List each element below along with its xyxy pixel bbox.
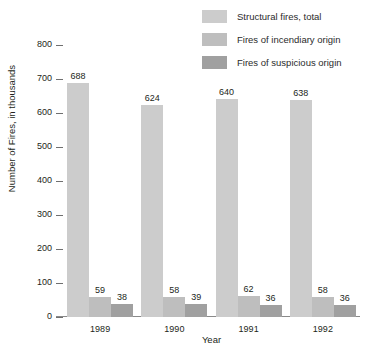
- y-axis-tick: 0: [0, 317, 63, 318]
- y-axis-tick-label: 0: [47, 311, 52, 321]
- bar-group: 64062361991: [212, 45, 286, 317]
- bar[interactable]: [89, 297, 111, 317]
- bar-column[interactable]: 62: [238, 296, 260, 317]
- legend-item-structural-fires-total: Structural fires, total: [202, 9, 377, 23]
- y-axis-tick-label: 600: [37, 107, 52, 117]
- legend-swatch-icon: [202, 10, 227, 23]
- bar[interactable]: [290, 100, 312, 317]
- x-axis-tick-label: 1992: [313, 324, 333, 334]
- bar-column[interactable]: 39: [185, 304, 207, 317]
- y-axis-tick-mark: [56, 147, 63, 148]
- y-axis-tick-mark: [56, 79, 63, 80]
- bar-value-label: 640: [219, 87, 234, 97]
- y-axis-tick-label: 200: [37, 243, 52, 253]
- bar-value-label: 62: [244, 284, 254, 294]
- bar-group: 68859381989: [63, 45, 137, 317]
- legend-swatch-icon: [202, 33, 227, 46]
- bar[interactable]: [260, 305, 282, 317]
- bar-column[interactable]: 640: [216, 99, 238, 317]
- y-axis-tick-label: 500: [37, 141, 52, 151]
- bar-value-label: 36: [340, 293, 350, 303]
- y-axis-tick-mark: [56, 317, 63, 318]
- legend-label: Fires of incendiary origin: [237, 33, 341, 46]
- legend-item-fires-of-incendiary-origin: Fires of incendiary origin: [202, 32, 377, 46]
- plot-area: 8007006005004003002001000 68859381989624…: [63, 45, 360, 317]
- bar[interactable]: [111, 304, 133, 317]
- y-axis-tick-label: 100: [37, 277, 52, 287]
- bar[interactable]: [163, 297, 185, 317]
- y-axis-tick-label: 400: [37, 175, 52, 185]
- bar-column[interactable]: 624: [141, 105, 163, 317]
- y-axis-tick: 300: [0, 215, 63, 216]
- bar-value-label: 59: [95, 285, 105, 295]
- x-axis-tick-label: 1989: [90, 324, 110, 334]
- bar-column[interactable]: 688: [67, 83, 89, 317]
- bar-group: 63858361992: [286, 45, 360, 317]
- y-axis-tick-mark: [56, 113, 63, 114]
- y-axis-tick-mark: [56, 283, 63, 284]
- bar-value-label: 38: [117, 292, 127, 302]
- bar-column[interactable]: 59: [89, 297, 111, 317]
- y-axis-tick: 800: [0, 45, 63, 46]
- bar-value-label: 624: [145, 93, 160, 103]
- y-axis-tick: 200: [0, 249, 63, 250]
- x-axis-tick-label: 1990: [164, 324, 184, 334]
- bar-column[interactable]: 36: [334, 305, 356, 317]
- bar-value-label: 39: [191, 292, 201, 302]
- bar-groups: 6885938198962458391990640623619916385836…: [63, 45, 360, 317]
- y-axis-title: Number of Fires, in thousands: [6, 59, 17, 199]
- bar[interactable]: [185, 304, 207, 317]
- bar-column[interactable]: 638: [290, 100, 312, 317]
- bar-value-label: 58: [318, 285, 328, 295]
- x-axis-title: Year: [63, 334, 360, 345]
- y-axis-tick-mark: [56, 45, 63, 46]
- bar[interactable]: [238, 296, 260, 317]
- y-axis-tick-mark: [56, 181, 63, 182]
- y-axis-tick-label: 300: [37, 209, 52, 219]
- bar-value-label: 638: [293, 88, 308, 98]
- bar-value-label: 688: [71, 71, 86, 81]
- bar-column[interactable]: 38: [111, 304, 133, 317]
- bar-value-label: 58: [169, 285, 179, 295]
- bar[interactable]: [141, 105, 163, 317]
- bar[interactable]: [67, 83, 89, 317]
- bar-column[interactable]: 36: [260, 305, 282, 317]
- bar-column[interactable]: 58: [163, 297, 185, 317]
- bar[interactable]: [216, 99, 238, 317]
- bar[interactable]: [334, 305, 356, 317]
- bar-group: 62458391990: [137, 45, 211, 317]
- y-axis-tick-mark: [56, 249, 63, 250]
- bar[interactable]: [312, 297, 334, 317]
- bar-column[interactable]: 58: [312, 297, 334, 317]
- y-axis-tick: 100: [0, 283, 63, 284]
- bar-value-label: 36: [266, 293, 276, 303]
- y-axis-tick-mark: [56, 215, 63, 216]
- x-axis-tick-label: 1991: [239, 324, 259, 334]
- y-axis-tick-label: 700: [37, 73, 52, 83]
- y-axis-tick-label: 800: [37, 39, 52, 49]
- legend-label: Structural fires, total: [237, 10, 321, 23]
